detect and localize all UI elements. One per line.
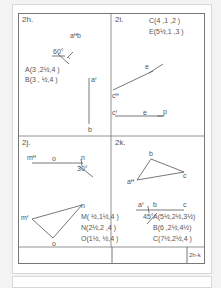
- panel-2i-title: 2i.: [115, 16, 123, 24]
- label-n-front: n: [81, 202, 85, 210]
- label-a-top: aᴴb: [70, 32, 81, 40]
- label-p: p: [163, 108, 167, 116]
- panel-2k-title: 2k.: [115, 139, 126, 147]
- angle-30: 30°: [77, 165, 88, 173]
- point-m: M( ½,1½,4 ): [81, 213, 119, 221]
- label-c-top: c: [183, 172, 187, 180]
- label-b-top: b: [149, 150, 153, 158]
- label-m-front: mᶠ: [21, 214, 28, 222]
- point-c: C(4 ,1 ,2 ): [149, 17, 180, 25]
- label-b-front-2k: b: [153, 201, 157, 209]
- label-o-front: o: [52, 240, 56, 248]
- point-n: N(2½,2 ,4 ): [81, 224, 116, 232]
- drawing-frame: 2h. aᴴb 60° A(3 ,2½,4 ) B(3 , ½,4 ) aᶠ b…: [18, 13, 205, 264]
- point-e: E(5½,1 ,3 ): [149, 28, 184, 36]
- label-b: b: [88, 126, 92, 134]
- label-o-top: o: [52, 155, 56, 163]
- point-a: A(3 ,2½,4 ): [25, 66, 60, 74]
- panel-2j-title: 2j.: [22, 139, 30, 147]
- label-e-front: e: [143, 109, 147, 117]
- label-a-front-2k: aᶠ: [138, 201, 144, 209]
- label-n-top: n: [81, 154, 85, 162]
- label-c-top: cᴴ: [112, 92, 119, 100]
- panel-2h-title: 2h.: [22, 16, 33, 24]
- sheet-id: 2h-k: [189, 251, 201, 259]
- next-page-edge: [12, 276, 212, 288]
- angle-45: 45°: [143, 213, 154, 221]
- label-a-top-2k: aᴴ: [127, 178, 134, 186]
- label-c-front-2k: c: [183, 201, 187, 209]
- point-b-2k: B(6 ,2½,4½): [153, 224, 192, 232]
- angle-60: 60°: [53, 48, 64, 56]
- point-b: B(3 , ½,4 ): [25, 76, 58, 84]
- point-o: O(1½, ½,4 ): [81, 235, 118, 243]
- label-a-front: aᶠ: [91, 76, 97, 84]
- point-c-2k: C(7½,2½,4 ): [153, 235, 192, 243]
- label-c-front: cᶠ: [112, 109, 117, 117]
- point-a-2k: A(5½,2½,3½): [153, 213, 195, 221]
- label-m-top: mᴴ: [27, 154, 36, 162]
- label-e-top: e: [145, 63, 149, 71]
